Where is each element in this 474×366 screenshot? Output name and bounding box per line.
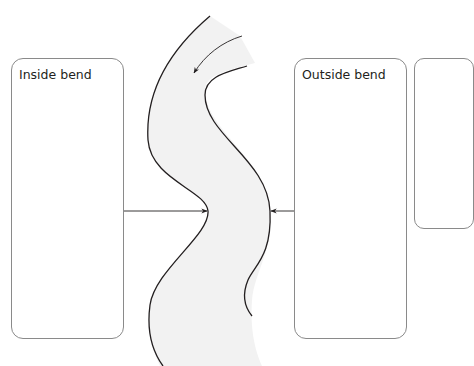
river-channel — [148, 16, 270, 366]
partial-third-box — [414, 58, 474, 229]
